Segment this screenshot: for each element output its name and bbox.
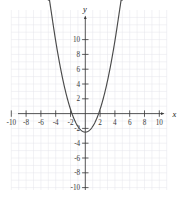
x-tick-label--8: -8 (23, 119, 29, 127)
graph-figure: -10 -8 -6 -4 -2 2 4 6 8 10 10 8 6 4 2 -2… (0, 0, 187, 199)
y-tick-label-8: 8 (77, 51, 81, 59)
y-tick-label--6: -6 (74, 155, 80, 163)
coordinate-plane: -10 -8 -6 -4 -2 2 4 6 8 10 10 8 6 4 2 -2… (0, 0, 187, 199)
axes (18, 17, 164, 191)
y-tick-label-10: 10 (73, 36, 81, 44)
x-tick-label-6: 6 (128, 119, 132, 127)
x-tick-label--6: -6 (38, 119, 44, 127)
y-tick-label--10: -10 (71, 184, 81, 192)
grid-horizontal-lines (11, 17, 166, 187)
grid-vertical-lines (11, 10, 166, 190)
y-tick-label-4: 4 (77, 81, 81, 89)
x-tick-label-4: 4 (113, 119, 117, 127)
y-tick-label--4: -4 (74, 140, 80, 148)
x-tick-label-2: 2 (98, 119, 102, 127)
x-tick-label--10: -10 (7, 119, 17, 127)
x-tick-label-10: 10 (156, 119, 164, 127)
y-tick-label-6: 6 (77, 66, 81, 74)
x-axis-label: x (172, 109, 177, 119)
x-tick-label--4: -4 (53, 119, 59, 127)
y-tick-label--8: -8 (74, 169, 80, 177)
x-tick-label-8: 8 (143, 119, 147, 127)
curve-arrow-right (117, 0, 121, 24)
curve-arrow-left (49, 0, 53, 24)
y-tick-label-2: 2 (77, 95, 81, 103)
y-axis-label: y (82, 4, 87, 14)
x-tick-label--2: -2 (68, 119, 74, 127)
grid-lines (11, 10, 166, 190)
